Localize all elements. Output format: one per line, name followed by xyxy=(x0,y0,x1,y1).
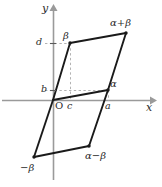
axes-group xyxy=(2,4,157,180)
x-axis-label: x xyxy=(146,102,152,113)
tick-label-a: a xyxy=(105,101,111,111)
vertex-dot-alpha-minus-beta xyxy=(87,144,90,147)
edge-beta-to-alphaplusbeta xyxy=(70,33,126,43)
edge-O-to-beta xyxy=(53,43,70,100)
upper-parallelogram xyxy=(53,33,126,100)
edge-minusbeta-to-alphaminusbeta xyxy=(34,146,89,157)
vertex-dot-minus-beta xyxy=(32,155,35,158)
edge-alpha-to-O xyxy=(53,90,108,100)
vertex-dot-alpha-plus-beta xyxy=(124,31,127,34)
tick-label-b: b xyxy=(41,84,47,94)
edge-O-to-minusbeta xyxy=(34,100,53,157)
vertex-label-alpha-plus-beta: α+β xyxy=(110,18,131,28)
vertex-label-alpha-minus-beta: α−β xyxy=(85,151,106,161)
figure-canvas: y x O β α+β α −β α−β a c b d xyxy=(0,0,162,187)
edge-alphaminusbeta-to-alpha xyxy=(89,90,108,146)
vertex-dot-beta xyxy=(68,41,71,44)
vertex-label-minus-beta: −β xyxy=(20,163,34,173)
y-axis-label: y xyxy=(42,3,48,14)
y-axis-arrowhead xyxy=(50,4,58,11)
tick-label-c: c xyxy=(67,101,72,111)
origin-label: O xyxy=(55,101,63,111)
tick-label-d: d xyxy=(36,37,42,47)
vertex-label-alpha: α xyxy=(110,79,117,89)
vertex-label-beta: β xyxy=(63,31,69,41)
complex-plane-diagram xyxy=(0,0,162,187)
